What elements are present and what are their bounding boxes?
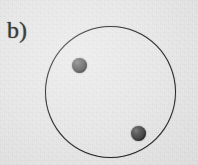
panel-label: b): [7, 18, 27, 42]
droplet-outline-circle: [45, 26, 176, 158]
figure-panel: b): [0, 0, 198, 165]
particle-lower-right: [131, 126, 146, 141]
particle-upper-left: [72, 58, 87, 73]
